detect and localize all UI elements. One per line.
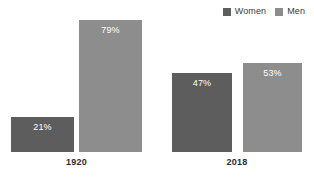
bar-value-1920-men: 79% [79,26,142,35]
bar-value-2018-women: 47% [172,79,232,88]
bar-value-1920-women: 21% [11,123,74,132]
category-label-2018: 2018 [172,158,302,167]
bar-2018-women[interactable]: 47% [172,73,232,152]
bar-value-2018-men: 53% [243,69,302,78]
plot-area: 21% 79% 47% 53% 1920 2018 [0,0,314,186]
bar-2018-men[interactable]: 53% [243,63,302,152]
bar-1920-women[interactable]: 21% [11,117,74,152]
bar-chart: Women Men 21% 79% 47% 53% 1920 2018 [0,0,314,186]
bar-1920-men[interactable]: 79% [79,20,142,152]
category-label-1920: 1920 [11,158,142,167]
